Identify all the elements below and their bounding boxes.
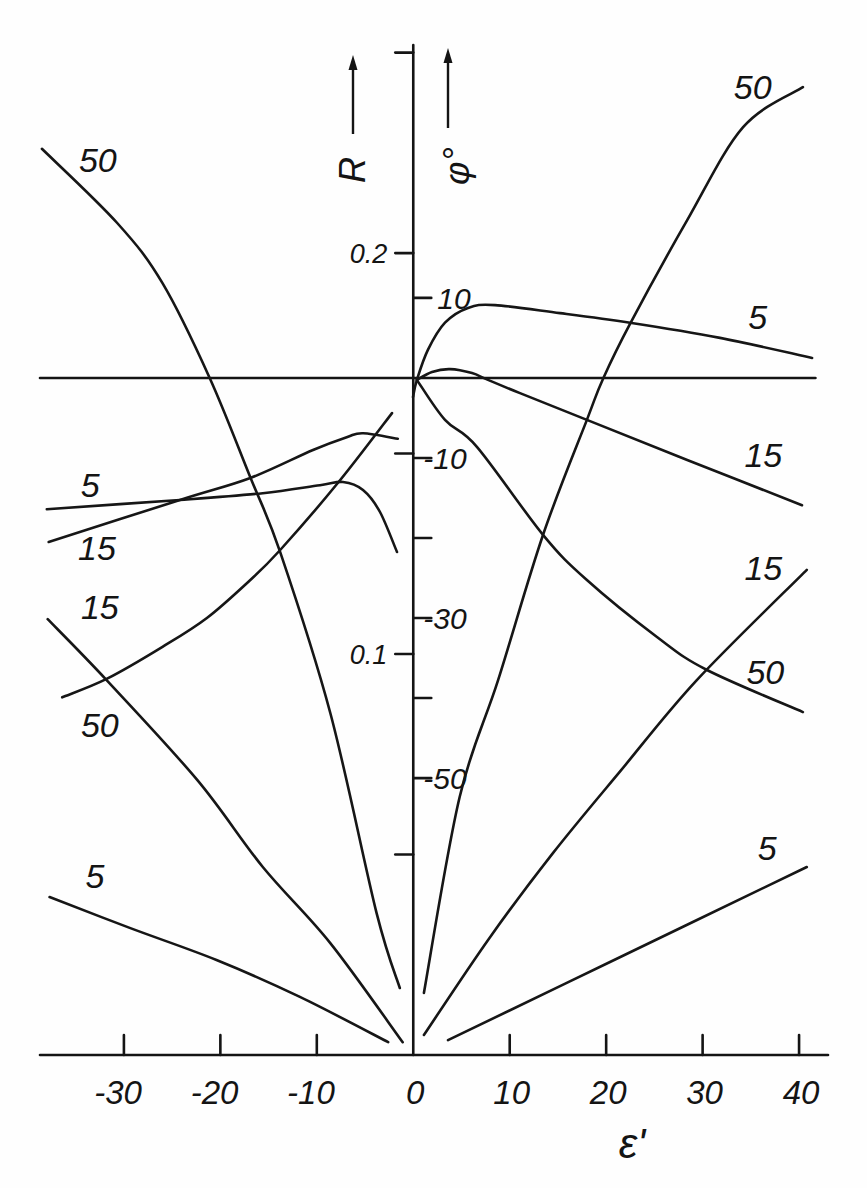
chart: -30-20-100102030400.20.110-10-30-5051550… bbox=[0, 0, 867, 1188]
curve-phi-50-right-label: 50 bbox=[746, 653, 784, 691]
x-tick-label: -30 bbox=[94, 1074, 142, 1111]
curve-phi-15-left-label: 15 bbox=[78, 529, 116, 567]
phi-tick-label: -50 bbox=[423, 762, 467, 795]
phi-tick-label: 10 bbox=[437, 282, 471, 315]
r-axis-title: R bbox=[332, 157, 373, 183]
curve-R-5-right bbox=[448, 867, 807, 1040]
x-tick-label: 10 bbox=[493, 1074, 530, 1111]
x-axis-title: ε' bbox=[619, 1120, 647, 1167]
x-tick-label: 30 bbox=[686, 1074, 723, 1111]
curve-R-5-left bbox=[50, 897, 389, 1042]
curve-phi-50-left-label: 50 bbox=[81, 706, 119, 744]
x-tick-label: -10 bbox=[287, 1074, 335, 1111]
curve-phi-15-right-label: 15 bbox=[744, 436, 782, 474]
curve-R-50-left-label: 50 bbox=[79, 141, 117, 179]
curve-R-50-right-label: 50 bbox=[734, 68, 772, 106]
r-tick-label: 0.2 bbox=[350, 239, 388, 269]
curve-phi-5-right-label: 5 bbox=[748, 298, 767, 336]
phi-tick-label: -30 bbox=[423, 602, 467, 635]
x-tick-label: 0 bbox=[406, 1074, 425, 1111]
r-tick-label: 0.1 bbox=[350, 640, 388, 670]
figure: -30-20-100102030400.20.110-10-30-5051550… bbox=[0, 0, 867, 1188]
curve-R-15-right bbox=[424, 570, 807, 1035]
labels-layer: -30-20-100102030400.20.110-10-30-5051550… bbox=[78, 68, 820, 1111]
r-axis-arrow bbox=[349, 55, 358, 134]
phi-axis-title: φ° bbox=[436, 147, 477, 185]
curve-R-15-left-label: 15 bbox=[81, 588, 119, 626]
phi-axis-arrow bbox=[444, 48, 453, 128]
arrow-up-icon bbox=[349, 55, 358, 70]
axes-layer bbox=[40, 45, 828, 1055]
curve-R-5-right-label: 5 bbox=[758, 829, 777, 867]
phi-tick-label: -10 bbox=[423, 442, 467, 475]
x-tick-label: -20 bbox=[191, 1074, 239, 1111]
curve-R-5-left-label: 5 bbox=[86, 857, 105, 895]
x-tick-label: 40 bbox=[783, 1074, 820, 1111]
curve-phi-5-left-label: 5 bbox=[81, 466, 100, 504]
curve-phi-15-left bbox=[49, 433, 398, 542]
curves-layer bbox=[42, 87, 812, 1042]
curve-R-50-right bbox=[424, 87, 803, 993]
arrow-up-icon bbox=[444, 48, 453, 63]
x-tick-label: 20 bbox=[589, 1074, 627, 1111]
curve-R-15-right-label: 15 bbox=[744, 549, 782, 587]
